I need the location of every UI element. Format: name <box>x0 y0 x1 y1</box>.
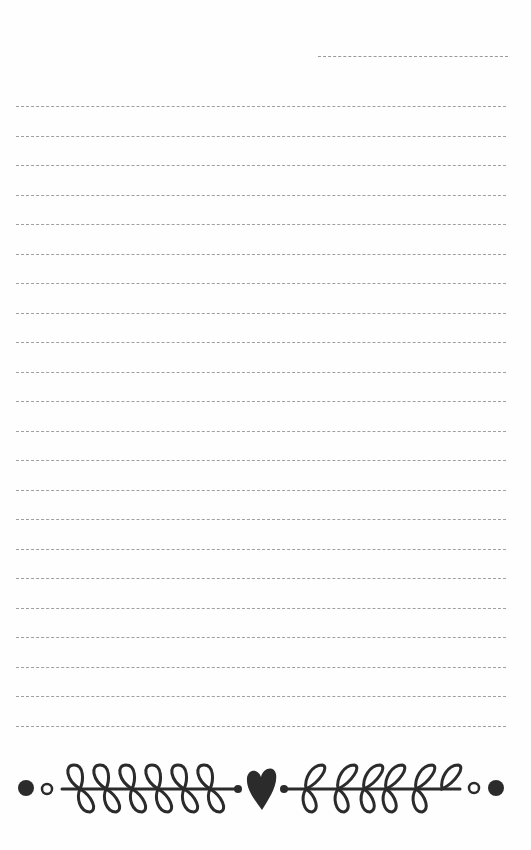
dot-icon <box>18 780 34 796</box>
ring-icon <box>469 783 479 793</box>
leaf-branch-left-icon <box>62 765 242 812</box>
writing-line[interactable] <box>16 608 506 638</box>
writing-lines <box>16 106 506 755</box>
notepaper-page <box>0 0 531 850</box>
writing-line[interactable] <box>16 283 506 313</box>
writing-line[interactable] <box>16 342 506 372</box>
writing-line[interactable] <box>16 224 506 254</box>
floral-ornament <box>0 750 531 830</box>
dot-icon <box>488 780 504 796</box>
writing-line[interactable] <box>16 106 506 136</box>
writing-line[interactable] <box>16 136 506 166</box>
heart-icon <box>247 769 276 810</box>
writing-line[interactable] <box>16 460 506 490</box>
writing-line[interactable] <box>16 637 506 667</box>
writing-line[interactable] <box>16 195 506 225</box>
leaf-branch-right-icon <box>280 765 461 812</box>
writing-line[interactable] <box>16 431 506 461</box>
writing-line[interactable] <box>16 667 506 697</box>
ring-icon <box>42 784 52 794</box>
writing-line[interactable] <box>16 372 506 402</box>
writing-line[interactable] <box>16 696 506 726</box>
writing-line[interactable] <box>16 549 506 579</box>
writing-line[interactable] <box>16 490 506 520</box>
writing-line[interactable] <box>16 401 506 431</box>
writing-line[interactable] <box>16 165 506 195</box>
writing-line[interactable] <box>16 254 506 284</box>
writing-line[interactable] <box>16 578 506 608</box>
date-line[interactable] <box>318 56 508 57</box>
writing-line[interactable] <box>16 519 506 549</box>
writing-line[interactable] <box>16 313 506 343</box>
